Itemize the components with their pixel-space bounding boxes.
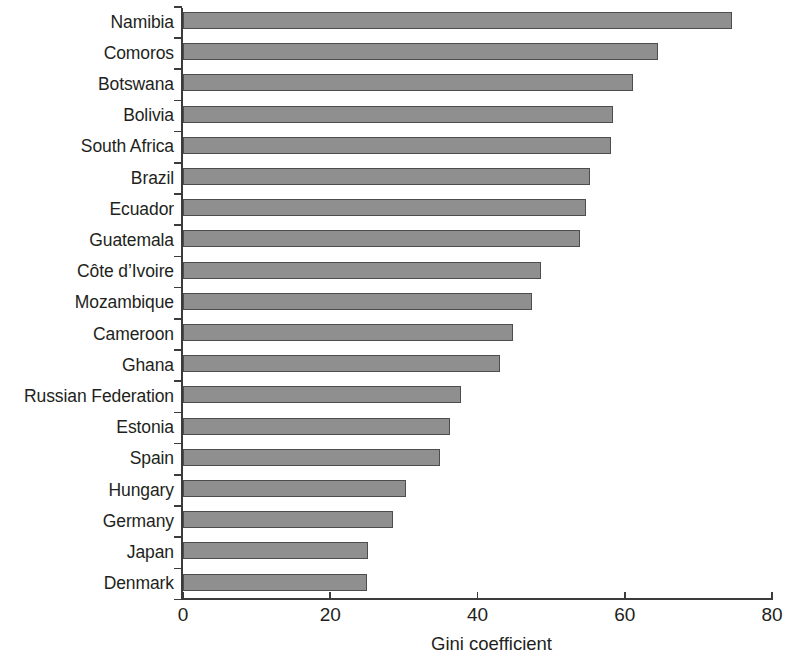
y-axis-tick bbox=[174, 100, 182, 102]
bar-row: Guatemala bbox=[0, 224, 795, 255]
y-axis-tick bbox=[174, 505, 182, 507]
bar bbox=[183, 293, 532, 310]
bar-row: Russian Federation bbox=[0, 380, 795, 411]
y-axis-tick bbox=[174, 568, 182, 570]
bar-row: Japan bbox=[0, 536, 795, 567]
y-axis-tick bbox=[174, 412, 182, 414]
bar bbox=[183, 574, 367, 591]
bar-row: Ghana bbox=[0, 349, 795, 380]
bars-layer: NamibiaComorosBotswanaBoliviaSouth Afric… bbox=[0, 0, 795, 600]
bar bbox=[183, 12, 732, 29]
x-axis-tick bbox=[329, 592, 331, 600]
x-axis-title-text: Gini coefficient bbox=[431, 633, 552, 654]
bar-row: Comoros bbox=[0, 37, 795, 68]
x-axis-tick bbox=[477, 592, 479, 600]
y-axis-tick bbox=[174, 380, 182, 382]
y-axis-tick bbox=[174, 224, 182, 226]
x-axis-tick-label: 0 bbox=[178, 604, 189, 626]
bar bbox=[183, 106, 613, 123]
bar-category-label: Mozambique bbox=[75, 292, 174, 313]
x-axis-tick bbox=[182, 592, 184, 600]
bar-category-label: Ghana bbox=[122, 354, 174, 375]
bar bbox=[183, 355, 500, 372]
bar-row: Mozambique bbox=[0, 287, 795, 318]
y-axis-tick bbox=[174, 131, 182, 133]
bar-row: Ecuador bbox=[0, 193, 795, 224]
bar bbox=[183, 137, 611, 154]
y-axis-tick bbox=[174, 6, 182, 8]
bar bbox=[183, 418, 450, 435]
x-axis-tick-label: 20 bbox=[320, 604, 341, 626]
gini-coefficient-bar-chart: NamibiaComorosBotswanaBoliviaSouth Afric… bbox=[0, 0, 795, 661]
bar-row: Estonia bbox=[0, 412, 795, 443]
bar-row: Hungary bbox=[0, 474, 795, 505]
bar bbox=[183, 230, 580, 247]
bar-category-label: Germany bbox=[103, 510, 174, 531]
bar-category-label: Brazil bbox=[131, 167, 174, 188]
bar-category-label: Cameroon bbox=[93, 323, 174, 344]
bar-row: Brazil bbox=[0, 162, 795, 193]
bar-row: Denmark bbox=[0, 568, 795, 599]
bar-category-label: Namibia bbox=[111, 11, 175, 32]
x-axis-tick-label: 60 bbox=[614, 604, 635, 626]
bar-category-label: Bolivia bbox=[123, 105, 174, 126]
bar-category-label: Ecuador bbox=[110, 198, 174, 219]
x-axis-tick bbox=[771, 592, 773, 600]
bar-category-label: Côte d’Ivoire bbox=[77, 261, 174, 282]
bar-category-label: South Africa bbox=[81, 136, 174, 157]
bar bbox=[183, 262, 541, 279]
bar bbox=[183, 74, 633, 91]
bar-row: Namibia bbox=[0, 6, 795, 37]
bar-row: Spain bbox=[0, 443, 795, 474]
y-axis-tick bbox=[174, 349, 182, 351]
bar-category-label: Spain bbox=[130, 448, 174, 469]
bar-row: Germany bbox=[0, 505, 795, 536]
bar-category-label: Botswana bbox=[98, 73, 174, 94]
y-axis-tick bbox=[174, 474, 182, 476]
bar bbox=[183, 480, 406, 497]
y-axis-tick bbox=[174, 37, 182, 39]
bar bbox=[183, 168, 590, 185]
y-axis-tick bbox=[174, 256, 182, 258]
bar-row: Bolivia bbox=[0, 100, 795, 131]
bar-row: Côte d’Ivoire bbox=[0, 256, 795, 287]
bar-row: Cameroon bbox=[0, 318, 795, 349]
y-axis-tick bbox=[174, 599, 182, 601]
x-axis-tick-label: 80 bbox=[761, 604, 782, 626]
bar bbox=[183, 324, 513, 341]
y-axis-tick bbox=[174, 318, 182, 320]
bar-category-label: Denmark bbox=[104, 573, 174, 594]
y-axis-tick bbox=[174, 536, 182, 538]
y-axis-tick bbox=[174, 162, 182, 164]
bar-row: Botswana bbox=[0, 68, 795, 99]
bar bbox=[183, 386, 461, 403]
bar-category-label: Comoros bbox=[104, 42, 174, 63]
x-axis-tick-label: 40 bbox=[467, 604, 488, 626]
bar bbox=[183, 199, 586, 216]
bar-category-label: Russian Federation bbox=[24, 385, 174, 406]
bar-category-label: Guatemala bbox=[89, 229, 174, 250]
y-axis-tick bbox=[174, 443, 182, 445]
bar-category-label: Estonia bbox=[116, 417, 174, 438]
bar bbox=[183, 542, 368, 559]
bar bbox=[183, 511, 393, 528]
bar bbox=[183, 43, 658, 60]
bar-category-label: Japan bbox=[127, 541, 174, 562]
x-axis-title: Gini coefficient bbox=[0, 633, 795, 655]
x-axis-tick bbox=[624, 592, 626, 600]
bar bbox=[183, 449, 440, 466]
y-axis-tick bbox=[174, 287, 182, 289]
bar-category-label: Hungary bbox=[109, 479, 174, 500]
y-axis-tick bbox=[174, 68, 182, 70]
bar-row: South Africa bbox=[0, 131, 795, 162]
y-axis-tick bbox=[174, 193, 182, 195]
